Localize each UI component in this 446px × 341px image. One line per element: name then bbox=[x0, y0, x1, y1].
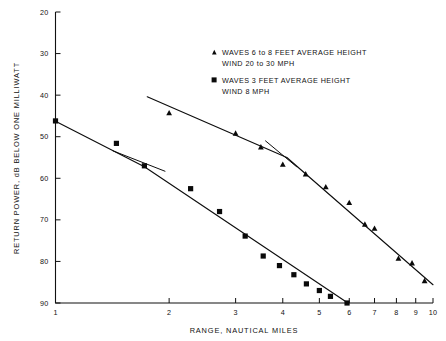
data-point-triangle-3 bbox=[280, 161, 286, 166]
y-tick-label-80: 80 bbox=[40, 257, 48, 266]
tangent-mark-square-series bbox=[113, 151, 165, 171]
chart-plot-area: 2030405060708090 12345678910 RANGE, NAUT… bbox=[0, 0, 446, 341]
data-point-triangle-0 bbox=[166, 110, 172, 115]
x-axis-title: RANGE, NAUTICAL MILES bbox=[190, 326, 299, 335]
data-point-square-8 bbox=[291, 272, 296, 277]
data-series-group bbox=[53, 97, 433, 306]
x-tick-label-8: 8 bbox=[394, 308, 398, 317]
x-tick-label-2: 2 bbox=[167, 308, 171, 317]
data-point-square-6 bbox=[261, 253, 266, 258]
data-point-square-0 bbox=[53, 118, 58, 123]
y-axis-title: RETURN POWER, dB BELOW ONE MILLIWATT bbox=[12, 62, 21, 254]
data-point-square-10 bbox=[317, 288, 322, 293]
chart-figure: 2030405060708090 12345678910 RANGE, NAUT… bbox=[0, 0, 446, 341]
data-point-square-3 bbox=[188, 186, 193, 191]
data-point-square-1 bbox=[114, 141, 119, 146]
y-tick-label-50: 50 bbox=[40, 132, 48, 141]
legend-entry-1-line2: WIND 8 MPH bbox=[222, 87, 270, 96]
y-tick-label-40: 40 bbox=[40, 91, 48, 100]
legend-entry-1-line1: WAVES 3 FEET AVERAGE HEIGHT bbox=[222, 76, 351, 85]
y-tick-label-70: 70 bbox=[40, 215, 48, 224]
data-point-triangle-1 bbox=[233, 130, 239, 135]
x-tick-label-5: 5 bbox=[317, 308, 321, 317]
series-1-square bbox=[53, 118, 350, 305]
y-tick-label-20: 20 bbox=[40, 8, 48, 17]
y-tick-label-60: 60 bbox=[40, 174, 48, 183]
data-point-triangle-5 bbox=[323, 184, 329, 189]
x-tick-label-10: 10 bbox=[429, 308, 437, 317]
data-point-triangle-8 bbox=[372, 225, 378, 230]
data-point-triangle-10 bbox=[409, 260, 415, 265]
series-1-fit-line bbox=[56, 121, 348, 303]
data-point-square-12 bbox=[344, 300, 349, 305]
legend-square-icon bbox=[212, 77, 217, 82]
chart-legend: WAVES 6 to 8 FEET AVERAGE HEIGHT WIND 20… bbox=[212, 48, 367, 96]
data-point-triangle-6 bbox=[346, 200, 352, 205]
y-tick-label-30: 30 bbox=[40, 49, 48, 58]
x-tick-label-3: 3 bbox=[234, 308, 238, 317]
legend-entry-0-line1: WAVES 6 to 8 FEET AVERAGE HEIGHT bbox=[222, 48, 367, 57]
data-point-square-5 bbox=[243, 233, 248, 238]
data-point-square-7 bbox=[277, 263, 282, 268]
x-tick-label-9: 9 bbox=[414, 308, 418, 317]
tangent-mark-triangle-series bbox=[266, 141, 297, 167]
x-tick-label-4: 4 bbox=[281, 308, 285, 317]
x-axis-ticks: 12345678910 bbox=[53, 298, 437, 317]
x-tick-label-6: 6 bbox=[347, 308, 351, 317]
x-tick-label-7: 7 bbox=[372, 308, 376, 317]
x-tick-label-1: 1 bbox=[53, 308, 57, 317]
data-point-square-9 bbox=[304, 281, 309, 286]
data-point-square-4 bbox=[217, 209, 222, 214]
y-axis-ticks: 2030405060708090 bbox=[40, 8, 60, 308]
legend-entry-0-line2: WIND 20 to 30 MPH bbox=[222, 59, 295, 68]
legend-triangle-icon bbox=[212, 50, 217, 55]
annotation-group bbox=[113, 141, 297, 171]
y-tick-label-90: 90 bbox=[40, 299, 48, 308]
data-point-square-11 bbox=[328, 294, 333, 299]
